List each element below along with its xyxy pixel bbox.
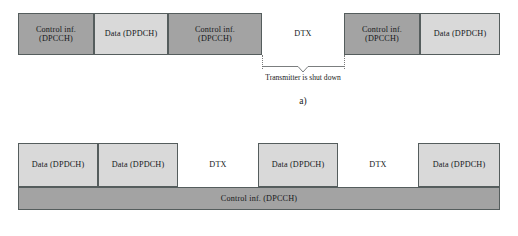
block-label: Control inf.(DPCCH) bbox=[195, 25, 235, 43]
block-dtx-3: DTX bbox=[262, 13, 344, 55]
block-label-line1: DTX bbox=[369, 160, 386, 169]
block-label: Data (DPDCH) bbox=[434, 29, 487, 38]
block-label-line1: Data (DPDCH) bbox=[105, 29, 158, 38]
block-label-line1: Data (DPDCH) bbox=[433, 160, 486, 169]
block-label-line1: Data (DPDCH) bbox=[272, 160, 325, 169]
block-label-line2: (DPCCH) bbox=[362, 34, 402, 43]
block-label: Data (DPDCH) bbox=[433, 160, 486, 169]
panel-b-timeline: Data (DPDCH)Data (DPDCH)DTXData (DPDCH)D… bbox=[0, 118, 518, 236]
block-dtx-2: DTX bbox=[178, 143, 258, 187]
block-label: Data (DPDCH) bbox=[105, 29, 158, 38]
shutdown-caption: Transmitter is shut down bbox=[233, 73, 373, 82]
block-label-line1: Control inf. bbox=[36, 25, 76, 34]
block-data-5: Data (DPDCH) bbox=[418, 143, 500, 187]
block-control-4: Control inf.(DPCCH) bbox=[344, 13, 420, 55]
block-label: Data (DPDCH) bbox=[112, 160, 165, 169]
panel-a-timeline: Control inf.(DPCCH)Data (DPDCH)Control i… bbox=[0, 0, 518, 118]
figure-label-a: a) bbox=[243, 96, 363, 106]
block-dtx-4: DTX bbox=[338, 143, 418, 187]
block-label: DTX bbox=[209, 160, 226, 169]
block-label: DTX bbox=[369, 160, 386, 169]
block-label: Control inf.(DPCCH) bbox=[36, 25, 76, 43]
block-label-line1: Data (DPDCH) bbox=[32, 160, 85, 169]
block-label-line1: DTX bbox=[209, 160, 226, 169]
block-label: Data (DPDCH) bbox=[32, 160, 85, 169]
block-label-line2: (DPCCH) bbox=[195, 34, 235, 43]
block-label-line1: DTX bbox=[294, 29, 311, 38]
block-label: DTX bbox=[294, 29, 311, 38]
block-label: Control inf.(DPCCH) bbox=[362, 25, 402, 43]
block-data-3: Data (DPDCH) bbox=[258, 143, 338, 187]
block-data-1: Data (DPDCH) bbox=[98, 143, 178, 187]
block-label-line1: Data (DPDCH) bbox=[112, 160, 165, 169]
block-label-line1: Control inf. bbox=[195, 25, 235, 34]
block-control-2: Control inf.(DPCCH) bbox=[168, 13, 262, 55]
block-data-0: Data (DPDCH) bbox=[18, 143, 98, 187]
block-data-1: Data (DPDCH) bbox=[94, 13, 168, 55]
block-label-line2: (DPCCH) bbox=[36, 34, 76, 43]
block-data-5: Data (DPDCH) bbox=[420, 13, 500, 55]
block-label-line1: Data (DPDCH) bbox=[434, 29, 487, 38]
block-control-0: Control inf.(DPCCH) bbox=[18, 13, 94, 55]
block-label-line1: Control inf. bbox=[362, 25, 402, 34]
figure-canvas: Control inf.(DPCCH)Data (DPDCH)Control i… bbox=[0, 0, 518, 236]
block-label: Data (DPDCH) bbox=[272, 160, 325, 169]
continuous-dpcch-bar: Control inf. (DPCCH) bbox=[18, 187, 500, 210]
continuous-dpcch-label: Control inf. (DPCCH) bbox=[221, 194, 297, 203]
gap-drop-line-right bbox=[344, 55, 345, 69]
